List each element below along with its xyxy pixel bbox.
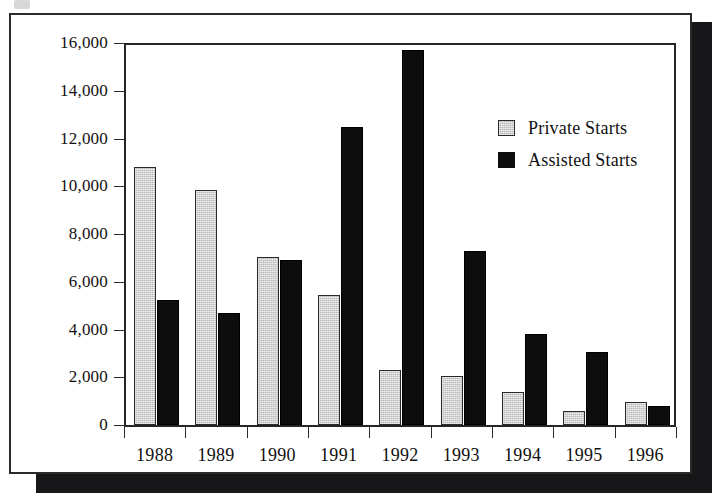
bar-1991-private	[318, 295, 340, 425]
bar-1989-private	[195, 190, 217, 425]
legend-item-private: Private Starts	[498, 115, 638, 141]
bar-1993-private	[441, 376, 463, 425]
y-axis-tick	[114, 282, 124, 283]
x-axis-tick	[676, 427, 677, 438]
black-square-icon	[498, 152, 515, 168]
scan-artifact-speck	[14, 0, 30, 9]
legend-label-private: Private Starts	[528, 118, 627, 138]
x-axis-tick	[553, 427, 554, 438]
bar-1992-private	[379, 370, 401, 425]
x-axis-label-1990: 1990	[242, 445, 312, 465]
x-axis-label-1995: 1995	[549, 445, 619, 465]
y-axis-tick	[114, 330, 124, 331]
bar-1990-private	[257, 257, 279, 425]
x-axis-label-1989: 1989	[181, 445, 251, 465]
y-axis-tick	[114, 425, 124, 426]
bar-1996-assisted	[648, 406, 670, 425]
x-axis-line	[124, 425, 676, 427]
x-axis-label-1988: 1988	[120, 445, 190, 465]
x-axis-tick	[615, 427, 616, 438]
y-axis-label: 10,000	[30, 177, 108, 194]
y-axis-tick	[114, 234, 124, 235]
legend-label-assisted: Assisted Starts	[528, 150, 638, 170]
y-axis-label: 2,000	[30, 368, 108, 385]
figure-root: 02,0004,0006,0008,00010,00012,00014,0001…	[0, 0, 716, 499]
y-axis-label: 4,000	[30, 321, 108, 338]
x-axis-tick	[492, 427, 493, 438]
y-axis-label: 0	[30, 416, 108, 433]
x-axis-label-1992: 1992	[365, 445, 435, 465]
x-axis-tick	[247, 427, 248, 438]
bar-1988-private	[134, 167, 156, 425]
x-axis-label-1994: 1994	[488, 445, 558, 465]
bar-1995-assisted	[586, 352, 608, 425]
bar-1990-assisted	[280, 260, 302, 425]
y-axis-tick	[114, 377, 124, 378]
bar-1989-assisted	[218, 313, 240, 425]
bar-chart-figure: 02,0004,0006,0008,00010,00012,00014,0001…	[9, 13, 692, 474]
legend-item-assisted: Assisted Starts	[498, 147, 638, 173]
gray-square-icon	[498, 120, 515, 136]
bar-1992-assisted	[402, 50, 424, 425]
y-axis-tick	[114, 43, 124, 44]
x-axis-tick	[185, 427, 186, 438]
x-axis-tick	[124, 427, 125, 438]
x-axis-tick	[369, 427, 370, 438]
y-axis-tick	[114, 186, 124, 187]
x-axis-tick	[431, 427, 432, 438]
bar-1996-private	[625, 402, 647, 425]
y-axis-tick	[114, 139, 124, 140]
x-axis-label-1996: 1996	[610, 445, 680, 465]
bar-1994-assisted	[525, 334, 547, 425]
chart-legend: Private Starts Assisted Starts	[498, 115, 638, 179]
bar-1993-assisted	[464, 251, 486, 425]
bar-1991-assisted	[341, 127, 363, 425]
y-axis-label: 6,000	[30, 273, 108, 290]
y-axis-label: 12,000	[30, 130, 108, 147]
y-axis-tick	[114, 91, 124, 92]
x-axis-tick	[308, 427, 309, 438]
bar-1988-assisted	[157, 300, 179, 425]
figure-drop-shadow-right	[690, 22, 712, 492]
y-axis-label: 8,000	[30, 225, 108, 242]
bar-1994-private	[502, 392, 524, 425]
y-axis-label: 16,000	[30, 34, 108, 51]
y-axis-label: 14,000	[30, 82, 108, 99]
x-axis-label-1993: 1993	[426, 445, 496, 465]
bar-1995-private	[563, 411, 585, 425]
x-axis-label-1991: 1991	[304, 445, 374, 465]
